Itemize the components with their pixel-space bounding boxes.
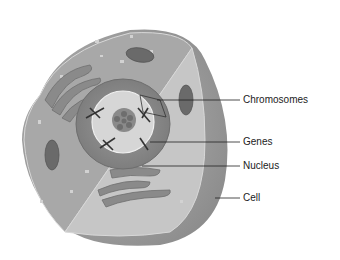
label-cell: Cell (243, 192, 260, 204)
label-chromosomes: Chromosomes (243, 94, 308, 106)
nucleolus (112, 108, 136, 132)
cell-illustration (0, 0, 340, 260)
label-genes: Genes (243, 136, 272, 148)
cell-diagram: Chromosomes Genes Nucleus Cell (0, 0, 340, 260)
label-nucleus: Nucleus (243, 160, 279, 172)
